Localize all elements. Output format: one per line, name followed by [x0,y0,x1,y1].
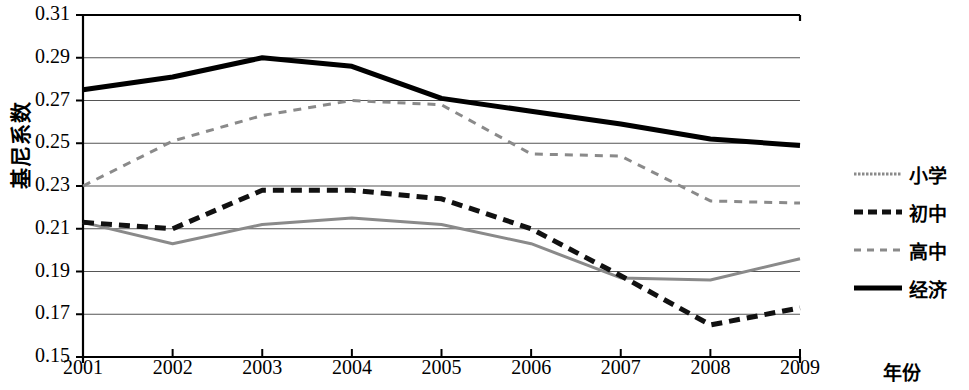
x-tick-label: 2002 [133,356,213,379]
legend-swatch-icon [852,167,904,181]
y-tick-label: 0.21 [8,216,70,239]
series-line-2 [83,101,800,204]
legend-label: 经济 [909,275,947,302]
legend-label: 小学 [909,161,947,188]
legend-label: 高中 [909,237,947,264]
x-axis-title: 年份 [883,358,921,385]
x-tick-label: 2008 [670,356,750,379]
x-tick-label: 2005 [402,356,482,379]
legend-swatch-icon [852,281,904,295]
legend-label: 初中 [909,199,947,226]
x-tick-label: 2006 [491,356,571,379]
y-tick-label: 0.29 [8,45,70,68]
y-tick-label: 0.17 [8,301,70,324]
legend-swatch-icon [852,243,904,257]
series-line-1 [83,190,800,325]
y-tick-label: 0.23 [8,173,70,196]
gini-coefficient-line-chart: 基尼系数 年份 0.150.170.190.210.230.250.270.29… [0,0,969,390]
legend-swatch-icon [852,205,904,219]
legend-item-3: 经济 [852,269,969,307]
x-tick-label: 2001 [43,356,123,379]
series-line-0 [83,218,800,280]
y-tick-label: 0.27 [8,88,70,111]
x-tick-label: 2004 [312,356,392,379]
plot-area [0,0,969,390]
x-tick-label: 2007 [581,356,661,379]
series-line-3 [83,58,800,146]
legend-item-2: 高中 [852,231,969,269]
y-tick-label: 0.19 [8,259,70,282]
legend-item-0: 小学 [852,155,969,193]
y-tick-label: 0.31 [8,2,70,25]
y-tick-label: 0.25 [8,130,70,153]
chart-legend: 小学初中高中经济 [852,155,969,307]
x-tick-label: 2003 [222,356,302,379]
legend-item-1: 初中 [852,193,969,231]
x-tick-label: 2009 [760,356,840,379]
